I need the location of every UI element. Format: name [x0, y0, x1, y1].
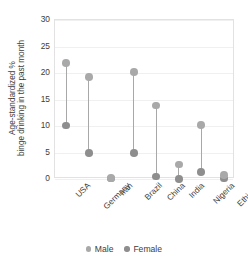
plot-panel: [54, 19, 234, 178]
y-tick-label-25: 25: [30, 41, 50, 51]
legend-label-male: Male: [95, 244, 114, 254]
data-point-female-nigeria[interactable]: [197, 168, 205, 176]
legend-item-female[interactable]: Female: [124, 244, 162, 254]
x-tick-label-ethiopia: Ethiopia: [235, 181, 248, 208]
gridline-y-10: [55, 126, 233, 127]
chart-figure: Age-standardized % binge drinking in the…: [0, 0, 248, 268]
data-point-male-india[interactable]: [175, 161, 183, 169]
y-tick-label-10: 10: [30, 120, 50, 130]
gridline-y-0: [55, 179, 233, 180]
gridline-y-30: [55, 20, 233, 21]
connector-line: [66, 63, 67, 126]
y-tick-label-15: 15: [30, 94, 50, 104]
data-point-male-nigeria[interactable]: [197, 121, 205, 129]
data-point-male-ethiopia[interactable]: [220, 171, 228, 179]
legend-label-female: Female: [133, 244, 162, 254]
x-tick-label-brazil: Brazil: [143, 181, 164, 202]
data-point-male-iran[interactable]: [107, 174, 115, 182]
connector-line: [88, 77, 89, 153]
data-point-male-germany[interactable]: [85, 73, 93, 81]
data-point-female-usa[interactable]: [62, 122, 70, 130]
data-point-male-china[interactable]: [152, 102, 160, 110]
chart-legend: Male Female: [0, 244, 248, 254]
y-axis-title-line-2: binge drinking in the past month: [17, 40, 26, 156]
y-axis-tick-labels: 051015202530: [30, 0, 50, 268]
data-point-male-brazil[interactable]: [130, 68, 138, 76]
y-axis-title: Age-standardized % binge drinking in the…: [0, 8, 34, 188]
legend-item-male[interactable]: Male: [86, 244, 114, 254]
y-axis-title-line-1: Age-standardized %: [8, 61, 17, 135]
x-tick-label-china: China: [166, 181, 188, 203]
y-tick-label-20: 20: [30, 67, 50, 77]
x-tick-label-nigeria: Nigeria: [212, 181, 237, 206]
y-tick-label-5: 5: [30, 147, 50, 157]
data-point-male-usa[interactable]: [62, 59, 70, 67]
y-tick-label-0: 0: [30, 173, 50, 183]
legend-swatch-female-icon: [124, 246, 129, 251]
gridline-y-20: [55, 73, 233, 74]
gridline-y-25: [55, 47, 233, 48]
legend-swatch-male-icon: [86, 246, 91, 251]
data-point-female-brazil[interactable]: [130, 149, 138, 157]
data-point-female-china[interactable]: [152, 173, 160, 181]
gridline-y-5: [55, 153, 233, 154]
y-tick-label-30: 30: [30, 14, 50, 24]
x-tick-label-usa: USA: [74, 181, 92, 199]
data-point-female-germany[interactable]: [85, 149, 93, 157]
connector-line: [156, 105, 157, 176]
x-tick-label-india: India: [187, 181, 206, 200]
connector-line: [133, 72, 134, 153]
gridline-y-15: [55, 100, 233, 101]
connector-line: [201, 125, 202, 172]
